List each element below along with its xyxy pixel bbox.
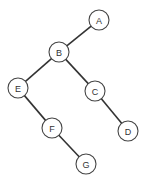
node-F: F bbox=[42, 118, 62, 138]
node-G: G bbox=[76, 154, 96, 174]
node-C: C bbox=[85, 81, 105, 101]
node-B: B bbox=[49, 42, 69, 62]
node-A: A bbox=[89, 10, 109, 30]
edge-B-C bbox=[66, 59, 88, 83]
node-label: B bbox=[56, 48, 62, 58]
node-D: D bbox=[118, 121, 138, 141]
edge-A-B bbox=[67, 26, 91, 46]
edge-B-E bbox=[26, 59, 52, 82]
edge-E-F bbox=[24, 96, 45, 121]
node-label: A bbox=[96, 16, 102, 26]
node-label: C bbox=[92, 87, 99, 97]
node-label: F bbox=[49, 124, 55, 134]
node-label: D bbox=[125, 127, 132, 137]
edge-F-G bbox=[59, 135, 79, 156]
tree-diagram: ABECFDG bbox=[0, 0, 148, 186]
node-label: G bbox=[82, 160, 89, 170]
edge-C-D bbox=[101, 99, 121, 124]
edges bbox=[24, 26, 121, 156]
node-E: E bbox=[8, 78, 28, 98]
node-label: E bbox=[15, 84, 21, 94]
